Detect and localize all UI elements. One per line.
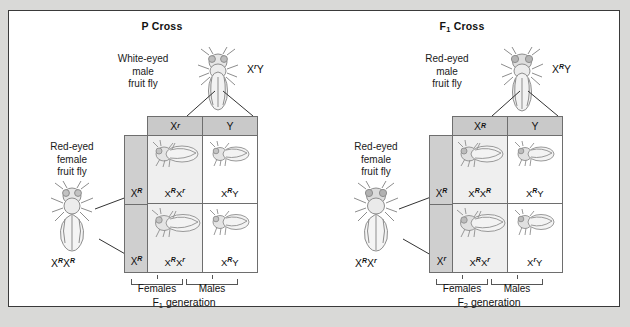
- male-connector-lines-p: [159, 87, 269, 117]
- punnett-cell-genotype-1-p: XRY: [203, 188, 258, 199]
- generation-sub-f1: 2: [464, 301, 468, 310]
- punnett-cell-3-p: XRY: [203, 204, 258, 272]
- generation-sub-p: 1: [159, 301, 163, 310]
- panel-title-f1-cross: F1 Cross: [309, 20, 615, 34]
- punnett-cell-genotype-2-f1: XRXr: [453, 257, 507, 268]
- offspring-fly-icon: [455, 208, 507, 238]
- offspring-fly-icon: [150, 208, 202, 238]
- females-caption-f1: Females: [436, 283, 488, 294]
- female-parent-genotype-f1: XRXr: [355, 257, 377, 269]
- punnett-body-p: XRXr: [147, 135, 258, 273]
- punnett-body-f1: XRXR: [452, 135, 563, 273]
- punnett-cell-genotype-3-p: XRY: [203, 257, 258, 268]
- punnett-column-headers-p: Xr Y: [147, 116, 258, 136]
- punnett-row-header-1-p: XR: [125, 204, 148, 273]
- offspring-fly-icon: [514, 141, 558, 167]
- punnett-cell-2-f1: XRXr: [453, 204, 508, 272]
- punnett-row-headers-p: XR XR: [124, 135, 148, 273]
- female-parent-label-f1: Red-eyed female fruit fly: [333, 141, 419, 179]
- fruit-fly-female-icon-f1: [353, 181, 399, 253]
- punnett-cell-1-f1: XRY: [508, 136, 563, 204]
- punnett-row-header-0-f1: XR: [430, 136, 453, 204]
- punnett-cell-2-p: XRXr: [148, 204, 203, 272]
- punnett-square-f1: XR Y XR Xr: [429, 116, 563, 273]
- offspring-fly-icon: [209, 209, 253, 236]
- punnett-cell-genotype-0-p: XRXr: [148, 188, 202, 199]
- punnett-column-headers-f1: XR Y: [452, 116, 563, 136]
- panel-p-cross: P Cross White-eyed male fruit fly: [9, 11, 315, 308]
- offspring-fly-icon: [151, 140, 201, 168]
- punnett-row-headers-f1: XR Xr: [429, 135, 453, 273]
- panel-title-p-cross: P Cross: [9, 20, 315, 32]
- panel-title-text: P Cross: [142, 20, 183, 32]
- punnett-col-header-0-p: Xr: [148, 117, 202, 135]
- offspring-fly-icon: [514, 209, 558, 236]
- offspring-fly-icon: [209, 141, 253, 167]
- male-parent-label-f1: Red-eyed male fruit fly: [401, 53, 493, 91]
- male-parent-label-p: White-eyed male fruit fly: [97, 53, 189, 91]
- panel-title-suffix: Cross: [451, 20, 485, 32]
- punnett-row-header-1-f1: Xr: [430, 204, 453, 273]
- generation-word-p: generation: [166, 296, 216, 308]
- male-parent-genotype-p: XrY: [247, 63, 264, 75]
- punnett-row-header-0-p: XR: [125, 136, 148, 204]
- male-parent-genotype-f1: XRY: [552, 63, 571, 75]
- punnett-col-header-1-p: Y: [202, 117, 257, 135]
- generation-word-f1: generation: [471, 296, 521, 308]
- punnett-cell-genotype-3-f1: XrY: [508, 257, 563, 268]
- panel-f1-cross: F1 Cross Red-eyed male fruit fly XRY: [309, 11, 615, 308]
- males-caption-f1: Males: [491, 283, 543, 294]
- generation-caption-f1: F2 generation: [409, 296, 569, 310]
- figure-frame: P Cross White-eyed male fruit fly: [8, 10, 620, 307]
- female-parent-genotype-p: XRXR: [51, 257, 75, 269]
- punnett-cell-0-p: XRXr: [148, 136, 203, 204]
- females-caption-p: Females: [131, 283, 183, 294]
- generation-caption-p: F1 generation: [104, 296, 264, 310]
- punnett-cell-1-p: XRY: [203, 136, 258, 204]
- punnett-cell-genotype-2-p: XRXr: [148, 257, 202, 268]
- offspring-fly-icon: [456, 140, 506, 168]
- males-caption-p: Males: [186, 283, 238, 294]
- punnett-cell-genotype-1-f1: XRY: [508, 188, 563, 199]
- female-parent-label-p: Red-eyed female fruit fly: [29, 141, 115, 179]
- punnett-col-header-1-f1: Y: [507, 117, 562, 135]
- fruit-fly-female-icon-p: [49, 181, 95, 253]
- punnett-cell-genotype-0-f1: XRXR: [453, 188, 507, 199]
- punnett-cell-3-f1: XrY: [508, 204, 563, 272]
- punnett-square-p: Xr Y XR XR: [124, 116, 258, 273]
- male-connector-lines-f1: [464, 87, 574, 117]
- punnett-col-header-0-f1: XR: [453, 117, 507, 135]
- punnett-cell-0-f1: XRXR: [453, 136, 508, 204]
